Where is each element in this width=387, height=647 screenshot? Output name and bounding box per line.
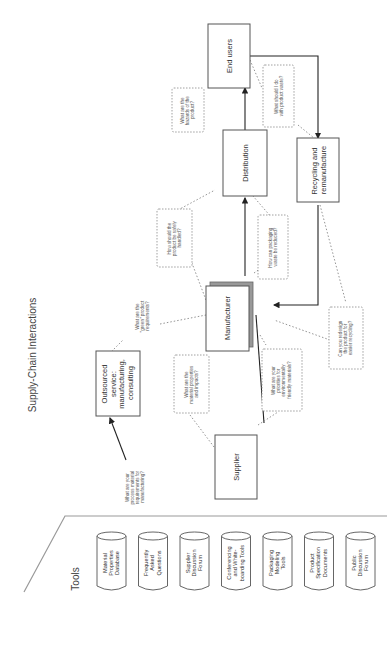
manufacturer-label: Manufacturer xyxy=(223,295,232,340)
node-recycling[interactable]: Recycling and remanufacture xyxy=(297,138,339,202)
svg-text:What are your process ma: What are your process material requireme… xyxy=(125,470,145,505)
end-users-label: End users xyxy=(225,39,234,73)
svg-text:What should I do with pr: What should I do with product waste? xyxy=(274,75,284,116)
supply-chain-diagram: Supply-Chain Interactions Tools Material… xyxy=(0,0,387,647)
tool-faq[interactable]: FrequentlyAskedQuestions xyxy=(139,532,168,590)
tool-material-properties-database[interactable]: MaterialPropertiesDatabase xyxy=(97,532,126,590)
redesign-q-to-manufacturer xyxy=(274,320,330,340)
tool-label: Conferencingand White-boarding Tools xyxy=(226,545,245,581)
tool-public-forum[interactable]: PublicDiscussionForum xyxy=(346,532,375,590)
product-waste-q-to-recycling xyxy=(298,125,314,138)
green-q-to-manufacturer xyxy=(160,315,206,324)
manufacturer-to-priorities-q xyxy=(260,335,266,345)
endusers-to-product-waste-q xyxy=(250,60,262,88)
process-req-to-outsourced-arrow xyxy=(110,418,126,460)
question-green-requirements: What are the "green" product requirement… xyxy=(135,300,150,333)
supplier-label: Supplier xyxy=(232,453,241,481)
tools-list: MaterialPropertiesDatabaseFrequentlyAske… xyxy=(97,532,375,590)
recycling-to-redesign-q xyxy=(320,205,346,303)
question-safely-handled: How should the product be safely handled… xyxy=(157,209,192,267)
tool-supplier-forum[interactable]: SupplierDiscussionForum xyxy=(180,532,209,590)
distribution-label: Distribution xyxy=(241,144,250,182)
question-material-properties: What are the material properties and imp… xyxy=(174,355,209,413)
question-process-requirements: What are your process material requireme… xyxy=(125,470,145,505)
node-outsourced[interactable]: Outsourced service: manufacturing, consu… xyxy=(96,351,140,416)
question-priorities: What are your priorities for environment… xyxy=(262,349,302,411)
question-packaging-waste: How can packaging waste be reduced? xyxy=(258,215,288,279)
diagram-title: Supply-Chain Interactions xyxy=(27,298,38,413)
svg-text:What are your priorities: What are your priorities for environment… xyxy=(271,361,292,399)
node-end-users[interactable]: End users xyxy=(208,24,250,88)
tool-packaging-modeling[interactable]: PackagingModelingTools xyxy=(263,532,292,590)
node-manufacturer[interactable]: Manufacturer xyxy=(206,282,253,351)
svg-text:Can you redesign the pro: Can you redesign the product for easier … xyxy=(338,319,353,356)
supplier-to-priorities-q xyxy=(258,412,278,425)
node-distribution[interactable]: Distribution xyxy=(223,130,267,196)
question-redesign: Can you redesign the product for easier … xyxy=(329,307,363,369)
node-supplier[interactable]: Supplier xyxy=(215,435,257,499)
tool-label: MaterialPropertiesDatabase xyxy=(102,550,121,576)
question-hazards: What are the hazards of the product? xyxy=(172,88,204,132)
svg-text:How can packaging waste: How can packaging waste be reduced? xyxy=(268,226,278,267)
question-product-waste: What should I do with product waste? xyxy=(263,65,294,127)
tool-conferencing[interactable]: Conferencingand White-boarding Tools xyxy=(222,532,251,590)
svg-text:What are the "green" pro: What are the "green" product requirement… xyxy=(135,300,150,333)
recycling-label: Recycling and remanufacture xyxy=(310,145,328,194)
tool-product-specification[interactable]: ProductSpecificationDocuments xyxy=(305,532,334,590)
tools-title: Tools xyxy=(70,567,81,590)
safely-q-to-distribution xyxy=(178,190,215,210)
material-q-to-supplier xyxy=(190,415,214,447)
